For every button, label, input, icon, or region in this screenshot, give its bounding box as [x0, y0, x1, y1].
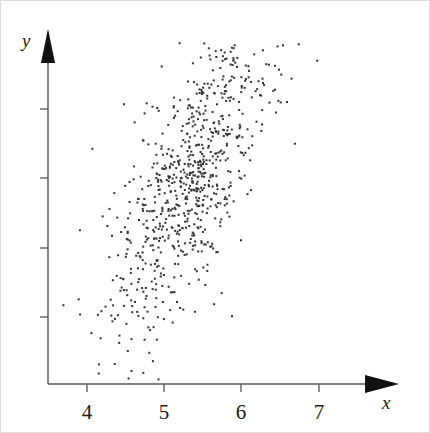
data-point: [200, 164, 202, 166]
data-point: [256, 121, 258, 123]
data-point: [212, 69, 214, 71]
data-point: [204, 195, 206, 197]
data-point: [119, 335, 121, 337]
data-point: [216, 103, 218, 105]
data-point: [233, 47, 235, 49]
data-point: [166, 153, 168, 155]
data-point: [209, 58, 211, 60]
data-point: [202, 211, 204, 213]
data-point: [210, 151, 212, 153]
data-point: [165, 167, 167, 169]
data-point: [230, 64, 232, 66]
data-point: [158, 185, 160, 187]
data-point: [228, 114, 230, 116]
data-point: [263, 84, 265, 86]
data-point: [249, 159, 251, 161]
data-point: [173, 276, 175, 278]
data-point: [154, 263, 156, 265]
data-point: [160, 251, 162, 253]
data-point: [155, 297, 157, 299]
data-point: [142, 246, 144, 248]
data-point: [187, 163, 189, 165]
data-point: [202, 163, 204, 165]
data-point: [188, 188, 190, 190]
data-point: [144, 112, 146, 114]
data-point: [167, 210, 169, 212]
data-point: [242, 113, 244, 115]
data-point: [203, 176, 205, 178]
data-point: [200, 151, 202, 153]
data-point: [178, 162, 180, 164]
data-point: [160, 273, 162, 275]
data-point: [130, 268, 132, 270]
data-point: [137, 281, 139, 283]
data-point: [182, 227, 184, 229]
data-point: [125, 256, 127, 258]
data-point: [220, 150, 222, 152]
data-point: [203, 168, 205, 170]
data-point: [256, 88, 258, 90]
data-point: [126, 289, 128, 291]
data-point: [207, 241, 209, 243]
data-point: [192, 165, 194, 167]
data-point: [280, 101, 282, 103]
data-point: [193, 120, 195, 122]
data-point: [227, 126, 229, 128]
data-point: [207, 138, 209, 140]
data-point: [209, 128, 211, 130]
data-point: [167, 202, 169, 204]
data-point: [206, 196, 208, 198]
data-point: [160, 213, 162, 215]
data-point: [173, 117, 175, 119]
data-point: [166, 179, 168, 181]
data-point: [193, 189, 195, 191]
data-point: [186, 133, 188, 135]
data-point: [161, 229, 163, 231]
data-point: [156, 162, 158, 164]
data-point: [136, 311, 138, 313]
data-point: [191, 235, 193, 237]
data-point: [199, 160, 201, 162]
data-point: [200, 187, 202, 189]
data-point: [109, 208, 111, 210]
data-point: [224, 86, 226, 88]
data-point: [196, 84, 198, 86]
data-point: [149, 329, 151, 331]
data-point: [262, 82, 264, 84]
data-point: [128, 378, 130, 380]
data-point: [159, 237, 161, 239]
data-point: [268, 102, 270, 104]
data-point: [241, 152, 243, 154]
data-point: [200, 89, 202, 91]
data-point: [203, 161, 205, 163]
data-point: [189, 210, 191, 212]
data-point: [253, 53, 255, 55]
data-point: [165, 202, 167, 204]
data-point: [182, 139, 184, 141]
data-point: [202, 125, 204, 127]
data-point: [225, 100, 227, 102]
data-point: [158, 240, 160, 242]
data-point: [138, 278, 140, 280]
data-point: [108, 256, 110, 258]
data-point: [182, 251, 184, 253]
data-point: [191, 113, 193, 115]
data-point: [131, 305, 133, 307]
data-point: [162, 154, 164, 156]
data-point: [126, 238, 128, 240]
data-point: [146, 210, 148, 212]
data-point: [191, 116, 193, 118]
data-point: [236, 66, 238, 68]
data-point: [166, 200, 168, 202]
data-point: [161, 66, 163, 68]
data-point: [146, 220, 148, 222]
data-point: [168, 180, 170, 182]
data-point: [202, 87, 204, 89]
data-point: [142, 259, 144, 261]
data-point: [146, 295, 148, 297]
data-point: [170, 191, 172, 193]
data-point: [230, 96, 232, 98]
x-axis-arrowhead: [365, 375, 399, 393]
data-point: [119, 290, 121, 292]
data-point: [158, 228, 160, 230]
